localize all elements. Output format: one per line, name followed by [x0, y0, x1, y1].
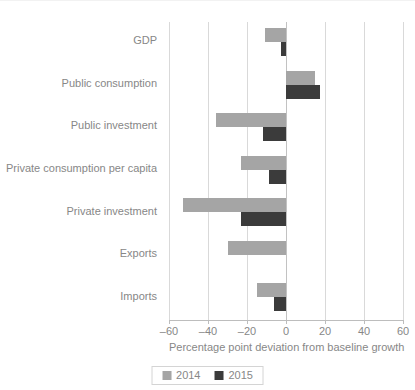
category-label: Private investment: [67, 205, 157, 217]
bar-2014: [241, 156, 286, 170]
legend-entry-2015: 2015: [215, 370, 253, 381]
gridline-60: [403, 22, 404, 320]
bar-2014: [286, 71, 315, 85]
legend-entry-2014: 2014: [162, 370, 200, 381]
bar-2015: [286, 85, 320, 99]
bar-2014: [228, 241, 287, 255]
bar-group-row: [169, 192, 403, 235]
plot-area: [169, 22, 403, 320]
bar-2015: [263, 127, 286, 141]
bar-2015: [241, 212, 286, 226]
bar-2014: [216, 113, 286, 127]
bar-group-row: [169, 65, 403, 108]
bar-2015: [269, 170, 286, 184]
category-label: Exports: [120, 247, 157, 259]
tick-label-40: 40: [358, 325, 370, 337]
bar-group-row: [169, 107, 403, 150]
bar-2014: [183, 198, 286, 212]
tick-label--20: –20: [238, 325, 256, 337]
tick-label-0: 0: [283, 325, 289, 337]
tick-mark-60: [403, 320, 404, 324]
category-label: Imports: [120, 290, 157, 302]
bar-group-row: [169, 235, 403, 278]
legend-label-2014: 2014: [176, 370, 200, 381]
legend-swatch-icon-2015: [215, 371, 224, 380]
category-label: Public investment: [71, 119, 157, 131]
tick-label-60: 60: [397, 325, 409, 337]
tick-mark-40: [364, 320, 365, 324]
category-label: Private consumption per capita: [6, 162, 157, 174]
chart-legend: 2014 2015: [151, 366, 264, 385]
category-axis-labels: GDPPublic consumptionPublic investmentPr…: [0, 22, 163, 320]
category-label: GDP: [133, 34, 157, 46]
bar-2014: [257, 283, 286, 297]
bar-group-row: [169, 22, 403, 65]
top-crop-rule: [0, 0, 415, 1]
category-label: Public consumption: [62, 77, 157, 89]
tick-mark--40: [208, 320, 209, 324]
legend-swatch-icon-2014: [162, 371, 171, 380]
tick-label-20: 20: [319, 325, 331, 337]
legend-label-2015: 2015: [229, 370, 253, 381]
tick-mark-0: [286, 320, 287, 324]
bar-2014: [265, 28, 286, 42]
tick-mark--60: [169, 320, 170, 324]
tick-label--60: –60: [160, 325, 178, 337]
bar-group-row: [169, 277, 403, 320]
bar-2015: [281, 42, 286, 56]
bar-group-row: [169, 150, 403, 193]
tick-label--40: –40: [199, 325, 217, 337]
bar-2015: [274, 297, 286, 311]
bar-chart-figure: GDPPublic consumptionPublic investmentPr…: [0, 0, 415, 390]
tick-mark--20: [247, 320, 248, 324]
x-axis-title: Percentage point deviation from baseline…: [169, 341, 404, 353]
tick-mark-20: [325, 320, 326, 324]
